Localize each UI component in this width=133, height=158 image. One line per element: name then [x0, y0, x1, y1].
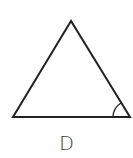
- angle-arc-marker: [113, 103, 121, 117]
- triangle-shape: [13, 21, 130, 117]
- figure-label: D: [0, 132, 133, 154]
